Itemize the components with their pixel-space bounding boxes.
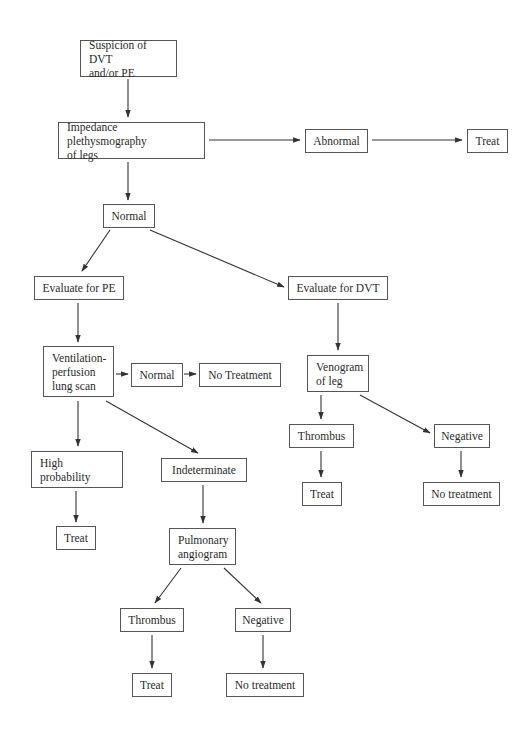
node-abnormal: Abnormal <box>305 129 368 153</box>
node-no-treatment-dvt: No treatment <box>423 482 500 506</box>
arrow-angiogram-to-negative <box>224 568 261 603</box>
node-thrombus-pe: Thrombus <box>120 608 184 632</box>
node-evaluate-for-pe: Evaluate for PE <box>34 276 124 300</box>
node-venogram: Venogram of leg <box>307 355 369 392</box>
node-high-probability: High probability <box>31 451 123 488</box>
arrow-angiogram-to-thrombus <box>155 568 181 603</box>
node-pulmonary-angiogram: Pulmonary angiogram <box>169 528 236 565</box>
arrow-vq-to-indeterminate <box>106 401 198 453</box>
node-negative-pe: Negative <box>235 608 291 632</box>
node-normal-vq: Normal <box>131 363 183 387</box>
node-suspicion: Suspicion of DVT and/or PE <box>80 40 177 77</box>
node-thrombus-dvt: Thrombus <box>289 424 354 448</box>
arrow-normal-to-eval-pe <box>82 230 110 271</box>
node-treat-high-probability: Treat <box>56 526 96 550</box>
node-treat-top: Treat <box>467 129 508 153</box>
node-indeterminate: Indeterminate <box>161 458 247 482</box>
arrow-normal-to-eval-dvt <box>150 230 284 287</box>
arrow-venogram-to-negative <box>360 395 430 433</box>
node-treat-dvt: Treat <box>302 482 342 506</box>
node-treat-pe: Treat <box>132 673 172 697</box>
node-impedance-plethysmography: Impedance plethysmography of legs <box>58 122 205 159</box>
node-no-treatment-vq: No Treatment <box>199 363 281 387</box>
node-normal-ipg: Normal <box>103 204 155 228</box>
node-vq-lung-scan: Ventilation- perfusion lung scan <box>43 346 114 397</box>
node-no-treatment-pe: No treatment <box>226 673 304 697</box>
node-negative-dvt: Negative <box>434 424 490 448</box>
node-evaluate-for-dvt: Evaluate for DVT <box>288 276 388 300</box>
dvt-pe-diagnostic-flowchart: Suspicion of DVT and/or PE Impedance ple… <box>0 0 532 730</box>
